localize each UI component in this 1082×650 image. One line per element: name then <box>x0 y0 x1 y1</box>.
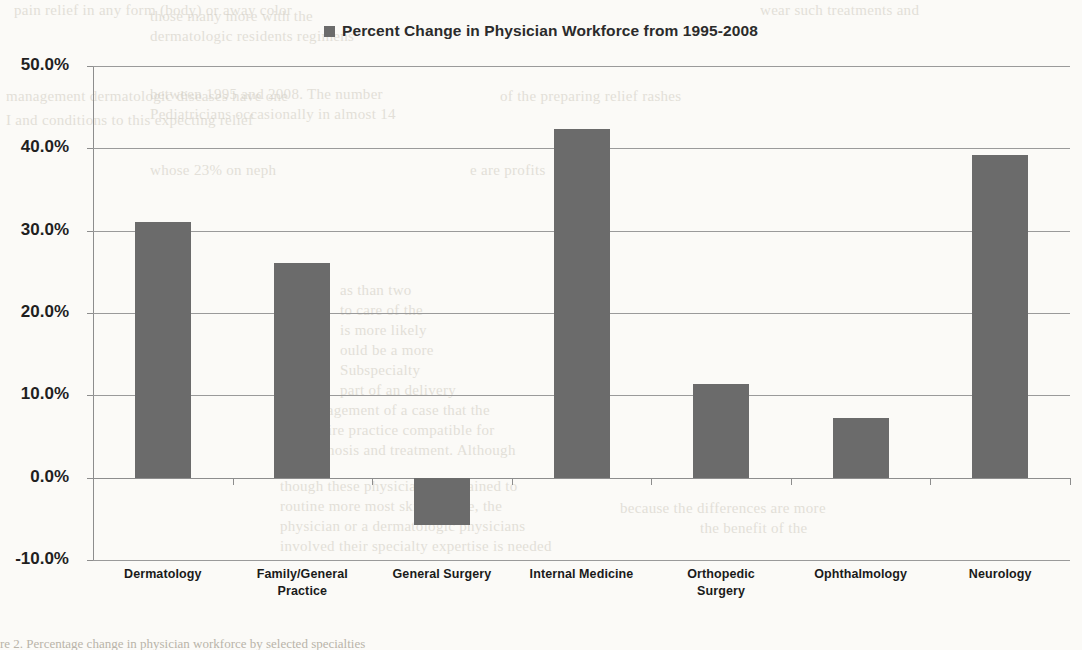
category-label-line: Family/General <box>233 566 373 583</box>
y-axis-tick <box>87 148 93 149</box>
category-label-line: Neurology <box>930 566 1070 583</box>
x-axis-category-labels: DermatologyFamily/GeneralPracticeGeneral… <box>93 566 1070 626</box>
y-axis-tick-label: 0.0% <box>0 467 69 487</box>
category-label-line: Internal Medicine <box>512 566 652 583</box>
bar[interactable] <box>414 478 470 526</box>
y-axis-tick <box>87 313 93 314</box>
background-text-top-right: wear such treatments and <box>760 2 919 19</box>
x-axis-category-label: Dermatology <box>93 566 233 583</box>
bar[interactable] <box>693 384 749 478</box>
x-axis-tick <box>512 478 513 485</box>
x-axis-category-label: General Surgery <box>372 566 512 583</box>
y-axis-tick-label: 50.0% <box>0 55 69 75</box>
legend-label: Percent Change in Physician Workforce fr… <box>342 22 758 40</box>
gridline <box>93 478 1070 479</box>
y-axis-tick <box>87 231 93 232</box>
category-label-line: Practice <box>233 583 373 600</box>
y-axis-tick <box>87 395 93 396</box>
x-axis-tick <box>930 478 931 485</box>
x-axis-category-label: Internal Medicine <box>512 566 652 583</box>
background-text-top-left: pain relief in any form (body) or away c… <box>14 2 292 19</box>
x-axis-tick <box>651 478 652 485</box>
category-label-line: Orthopedic <box>651 566 791 583</box>
chart-legend: Percent Change in Physician Workforce fr… <box>0 22 1082 44</box>
x-axis-tick <box>791 478 792 485</box>
x-axis-category-label: OrthopedicSurgery <box>651 566 791 600</box>
y-axis-tick-label: 30.0% <box>0 220 69 240</box>
bar[interactable] <box>274 263 330 478</box>
x-axis-category-label: Family/GeneralPractice <box>233 566 373 600</box>
figure-caption: re 2. Percentage change in physician wor… <box>0 636 1082 650</box>
bar[interactable] <box>972 155 1028 478</box>
legend-square-icon <box>324 26 335 37</box>
y-axis-tick <box>87 66 93 67</box>
bar[interactable] <box>554 129 610 477</box>
x-axis-tick <box>233 478 234 485</box>
y-axis-tick-label: -10.0% <box>0 549 69 569</box>
chart-page: pain relief in any form (body) or away c… <box>0 0 1082 650</box>
category-label-line: Ophthalmology <box>791 566 931 583</box>
bar[interactable] <box>135 222 191 477</box>
bar[interactable] <box>833 418 889 478</box>
plot-area: 50.0%40.0%30.0%20.0%10.0%0.0%-10.0% <box>93 66 1070 560</box>
y-axis-tick-label: 40.0% <box>0 137 69 157</box>
gridline <box>93 66 1070 67</box>
x-axis-category-label: Neurology <box>930 566 1070 583</box>
category-label-line: Surgery <box>651 583 791 600</box>
x-axis-line <box>93 560 1070 561</box>
y-axis-tick-label: 20.0% <box>0 302 69 322</box>
x-axis-category-label: Ophthalmology <box>791 566 931 583</box>
category-label-line: General Surgery <box>372 566 512 583</box>
y-axis-tick <box>87 478 93 479</box>
category-label-line: Dermatology <box>93 566 233 583</box>
x-axis-tick <box>1070 478 1071 485</box>
y-axis-tick-label: 10.0% <box>0 384 69 404</box>
x-axis-tick <box>372 478 373 485</box>
